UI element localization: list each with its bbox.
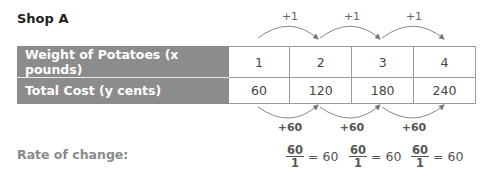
bottom-arc-1: [258, 105, 318, 118]
fraction-result: = 60: [371, 149, 401, 164]
weight-cost-table: Weight of Potatoes (x pounds) 1 2 3 4 To…: [17, 46, 476, 104]
fraction-result: = 60: [433, 149, 463, 164]
rate-label: Rate of change:: [17, 147, 128, 162]
rate-fraction: 601 = 60: [349, 144, 401, 169]
rate-fraction: 601 = 60: [411, 144, 463, 169]
table-cell: 60: [228, 78, 290, 104]
top-arc-2: [320, 26, 380, 39]
bottom-arrow-label: +60: [340, 121, 365, 134]
table-cell: 240: [414, 78, 476, 104]
table-cell: 120: [290, 78, 352, 104]
table-cell: 3: [352, 47, 414, 78]
top-arrow-label: +1: [344, 10, 360, 23]
table-cell: 2: [290, 47, 352, 78]
table-cell: 1: [228, 47, 290, 78]
row-header: Total Cost (y cents): [18, 78, 229, 104]
denominator: 1: [291, 157, 299, 169]
bottom-arrow-label: +60: [402, 121, 427, 134]
bottom-arc-3: [382, 105, 444, 118]
rate-fraction: 601 = 60: [286, 144, 338, 169]
fraction-result: = 60: [308, 149, 338, 164]
row-header: Weight of Potatoes (x pounds): [18, 47, 229, 78]
bottom-arrow-label: +60: [278, 121, 303, 134]
table-row: Total Cost (y cents) 60 120 180 240: [18, 78, 476, 104]
top-arc-3: [382, 26, 444, 39]
denominator: 1: [416, 157, 424, 169]
top-arrow-label: +1: [406, 10, 422, 23]
table-row: Weight of Potatoes (x pounds) 1 2 3 4: [18, 47, 476, 78]
denominator: 1: [354, 157, 362, 169]
table-cell: 4: [414, 47, 476, 78]
top-arrow-label: +1: [282, 10, 298, 23]
bottom-arc-2: [320, 105, 380, 118]
top-arc-1: [258, 26, 318, 39]
table-cell: 180: [352, 78, 414, 104]
